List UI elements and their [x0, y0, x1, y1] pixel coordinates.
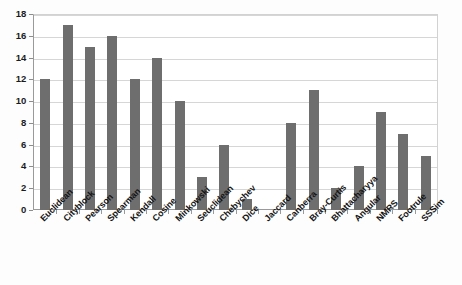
y-tick-mark	[29, 210, 33, 211]
y-tick-label: 8	[0, 118, 26, 128]
y-tick-label: 0	[0, 205, 26, 215]
bar-chart: 024681012141618 EuclideanCityblockPearso…	[0, 0, 462, 285]
y-tick-label: 14	[0, 53, 26, 63]
y-tick-label: 12	[0, 75, 26, 85]
y-tick-mark	[29, 101, 33, 102]
bar-slot[interactable]	[124, 14, 146, 210]
bar[interactable]	[152, 58, 162, 210]
y-tick-label: 2	[0, 183, 26, 193]
bar[interactable]	[40, 79, 50, 210]
y-axis: 024681012141618	[0, 0, 33, 285]
bar-slot[interactable]	[303, 14, 325, 210]
bar-slot[interactable]	[56, 14, 78, 210]
y-tick-mark	[29, 14, 33, 15]
bar-slot[interactable]	[191, 14, 213, 210]
bar[interactable]	[63, 25, 73, 210]
y-tick-label: 18	[0, 9, 26, 19]
bar-slot[interactable]	[168, 14, 190, 210]
bar-slot[interactable]	[415, 14, 437, 210]
bar-slot[interactable]	[325, 14, 347, 210]
y-tick-mark	[29, 79, 33, 80]
bar[interactable]	[107, 36, 117, 210]
y-tick-label: 6	[0, 140, 26, 150]
bar-slot[interactable]	[79, 14, 101, 210]
bar[interactable]	[175, 101, 185, 210]
y-tick-label: 16	[0, 31, 26, 41]
bar-slot[interactable]	[101, 14, 123, 210]
bar-slot[interactable]	[34, 14, 56, 210]
y-tick-mark	[29, 145, 33, 146]
bar[interactable]	[398, 134, 408, 210]
bar-slot[interactable]	[146, 14, 168, 210]
bar-slot[interactable]	[258, 14, 280, 210]
y-tick-label: 4	[0, 162, 26, 172]
bar-slot[interactable]	[213, 14, 235, 210]
y-tick-mark	[29, 58, 33, 59]
y-tick-mark	[29, 166, 33, 167]
bar[interactable]	[85, 47, 95, 210]
y-tick-mark	[29, 36, 33, 37]
y-tick-label: 10	[0, 96, 26, 106]
bar-slot[interactable]	[280, 14, 302, 210]
y-tick-mark	[29, 123, 33, 124]
bar-slot[interactable]	[236, 14, 258, 210]
bar-slot[interactable]	[392, 14, 414, 210]
y-tick-mark	[29, 188, 33, 189]
